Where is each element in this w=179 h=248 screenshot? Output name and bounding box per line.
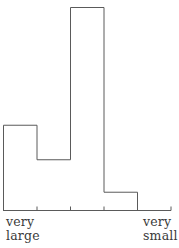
x-axis-label-right-line2: small xyxy=(143,229,178,243)
x-axis-label-left: very large xyxy=(6,215,40,243)
x-axis-label-left-line2: large xyxy=(6,229,40,243)
x-axis-label-right: very small xyxy=(143,215,178,243)
x-axis-label-right-line1: very xyxy=(143,215,178,229)
x-axis-label-left-line1: very xyxy=(6,215,40,229)
histogram-chart xyxy=(0,0,179,248)
x-axis-ticks xyxy=(37,207,171,211)
histogram-outline xyxy=(4,8,172,211)
histogram-bars xyxy=(4,8,172,211)
